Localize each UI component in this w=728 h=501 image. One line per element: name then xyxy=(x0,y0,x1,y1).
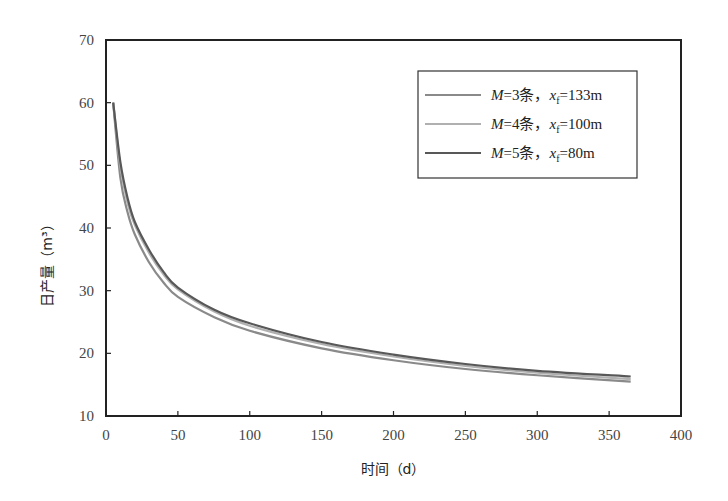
legend: M=3条，xf=133mM=4条，xf=100mM=5条，xf=80m xyxy=(418,71,637,178)
y-tick-label: 50 xyxy=(79,157,94,173)
y-tick-label: 70 xyxy=(79,32,94,48)
x-tick-label: 150 xyxy=(310,427,333,443)
y-tick-label: 10 xyxy=(79,408,94,424)
y-tick-label: 20 xyxy=(79,345,94,361)
x-tick-label: 250 xyxy=(454,427,477,443)
y-tick-label: 30 xyxy=(79,283,94,299)
x-tick-label: 100 xyxy=(239,427,262,443)
x-tick-label: 200 xyxy=(382,427,405,443)
x-tick-label: 350 xyxy=(598,427,621,443)
x-tick-label: 400 xyxy=(670,427,693,443)
y-tick-label: 60 xyxy=(79,95,94,111)
y-tick-label: 40 xyxy=(79,220,94,236)
y-axis-title: 日产量（m³） xyxy=(39,217,55,306)
decline-curve-chart: 10203040506070 050100150200250300350400 … xyxy=(0,0,728,501)
x-axis-title: 时间（d） xyxy=(361,461,426,477)
x-tick-label: 0 xyxy=(102,427,110,443)
x-tick-label: 300 xyxy=(526,427,549,443)
x-tick-label: 50 xyxy=(170,427,185,443)
